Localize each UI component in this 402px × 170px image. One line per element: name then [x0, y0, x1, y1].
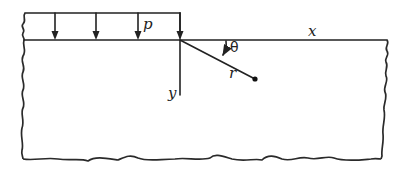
radius-line	[180, 40, 255, 79]
bottom-wavy-boundary	[23, 155, 381, 161]
angle-label: θ	[230, 39, 239, 55]
field-point	[252, 76, 257, 81]
right-wavy-boundary	[381, 40, 388, 159]
load-arrows	[52, 13, 184, 40]
load-arrow-icon	[93, 31, 100, 40]
half-space-diagram: p x y r θ	[0, 0, 402, 170]
load-arrow-icon	[135, 31, 142, 40]
load-label: p	[143, 15, 153, 33]
x-axis-label: x	[308, 22, 317, 40]
y-axis-label: y	[167, 84, 177, 102]
left-wavy-boundary	[21, 13, 25, 159]
theta-arc-icon	[223, 41, 226, 55]
load-arrow-icon	[52, 31, 59, 40]
distributed-load	[25, 13, 184, 40]
radius-label: r	[229, 64, 237, 82]
load-arrow-icon	[177, 31, 184, 40]
